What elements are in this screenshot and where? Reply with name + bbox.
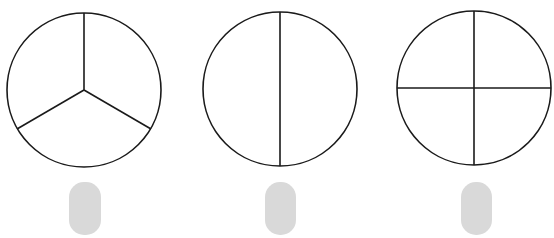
fraction-diagram: [0, 0, 554, 238]
divider-line: [84, 90, 151, 129]
answer-box-3[interactable]: [461, 182, 492, 235]
circle-quarters: [397, 11, 551, 165]
answer-box-2[interactable]: [265, 182, 296, 235]
circle-halves: [203, 12, 357, 166]
circle-thirds: [7, 13, 161, 167]
answer-box-1[interactable]: [69, 182, 101, 235]
divider-line: [17, 90, 84, 129]
